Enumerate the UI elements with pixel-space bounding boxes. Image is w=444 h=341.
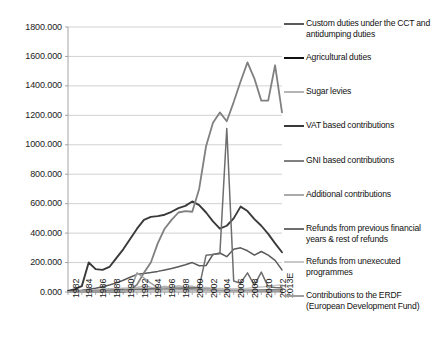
line-chart: 0.000200.000400.000600.000800.0001000.00… — [0, 0, 444, 341]
legend-item[interactable]: VAT based contributions — [284, 120, 442, 131]
legend-item[interactable]: Agricultural duties — [284, 52, 442, 63]
y-tick-label: 400.000 — [6, 229, 62, 238]
legend-item-label: Custom duties under the CCT and antidump… — [306, 18, 442, 39]
legend-item[interactable]: Sugar levies — [284, 86, 442, 97]
legend-color-swatch — [284, 295, 304, 297]
x-tick-label: 2010 — [265, 279, 274, 298]
y-tick-label: 1800.000 — [6, 23, 62, 32]
y-tick-label: 600.000 — [6, 199, 62, 208]
x-tick-label: 2008 — [251, 279, 260, 298]
legend-color-swatch — [284, 194, 304, 196]
legend-color-swatch — [284, 23, 304, 25]
y-tick-label: 1400.000 — [6, 81, 62, 90]
x-tick-label: 1996 — [168, 279, 177, 298]
y-tick-label: 200.000 — [6, 258, 62, 267]
legend-item-label: Refunds from previous financial years & … — [306, 223, 442, 244]
series-line — [68, 62, 282, 292]
legend-item[interactable]: Refunds from previous financial years & … — [284, 223, 442, 244]
x-tick-label: 2000 — [196, 279, 205, 298]
y-tick-label: 1000.000 — [6, 140, 62, 149]
data-series-group — [68, 62, 282, 292]
x-tick-label: 1992 — [141, 279, 150, 298]
x-tick-label: 2004 — [223, 279, 232, 298]
x-tick-label: 1982 — [72, 279, 81, 298]
legend-color-swatch — [284, 261, 304, 263]
y-tick-label: 0.000 — [6, 288, 62, 297]
x-tick-label: 1986 — [99, 279, 108, 298]
legend-item[interactable]: GNI based contributions — [284, 155, 442, 166]
legend-item[interactable]: Contributions to the ERDF (European Deve… — [284, 290, 442, 311]
x-tick-label: 1994 — [154, 279, 163, 298]
x-tick-label: 1998 — [182, 279, 191, 298]
legend-item[interactable]: Custom duties under the CCT and antidump… — [284, 18, 442, 39]
y-tick-label: 1600.000 — [6, 52, 62, 61]
legend-item-label: Agricultural duties — [306, 52, 442, 63]
x-tick-label: 1988 — [113, 279, 122, 298]
x-tick-label: 1990 — [127, 279, 136, 298]
legend-color-swatch — [284, 160, 304, 162]
x-tick-label: 1984 — [85, 279, 94, 298]
chart-legend: Custom duties under the CCT and antidump… — [284, 0, 444, 341]
legend-item-label: Contributions to the ERDF (European Deve… — [306, 290, 442, 311]
legend-item-label: Additional contributions — [306, 189, 442, 200]
legend-item-label: Refunds from unexecuted programmes — [306, 256, 442, 277]
legend-color-swatch — [284, 91, 304, 93]
x-tick-label: 2002 — [210, 279, 219, 298]
legend-color-swatch — [284, 125, 304, 127]
legend-item[interactable]: Refunds from unexecuted programmes — [284, 256, 442, 277]
legend-item-label: GNI based contributions — [306, 155, 442, 166]
y-tick-label: 1200.000 — [6, 111, 62, 120]
legend-item-label: VAT based contributions — [306, 120, 442, 131]
y-tick-label: 800.000 — [6, 170, 62, 179]
legend-item[interactable]: Additional contributions — [284, 189, 442, 200]
legend-color-swatch — [284, 57, 304, 59]
x-tick-label: 2006 — [237, 279, 246, 298]
legend-item-label: Sugar levies — [306, 86, 442, 97]
legend-color-swatch — [284, 228, 304, 230]
